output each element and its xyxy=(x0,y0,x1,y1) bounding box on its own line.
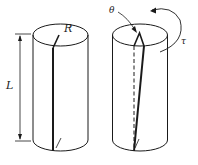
left-bottom-tick xyxy=(56,138,61,148)
right-bottom-arc xyxy=(113,140,168,151)
diagram-canvas xyxy=(0,0,198,165)
twisted-line xyxy=(134,46,144,151)
theta-arrow xyxy=(118,12,137,33)
length-dimension xyxy=(15,34,31,141)
left-top-ellipse xyxy=(33,24,88,46)
torsion-diagram: R L θ τ xyxy=(0,0,198,165)
length-label: L xyxy=(6,80,13,91)
twist-angle-wedge xyxy=(134,33,144,46)
left-cylinder xyxy=(33,24,88,151)
left-bottom-arc xyxy=(33,140,88,151)
right-cylinder xyxy=(113,24,168,151)
torque-arrow xyxy=(150,8,181,53)
torque-label: τ xyxy=(181,37,186,46)
angle-label: θ xyxy=(109,6,114,15)
radius-label: R xyxy=(64,23,72,34)
